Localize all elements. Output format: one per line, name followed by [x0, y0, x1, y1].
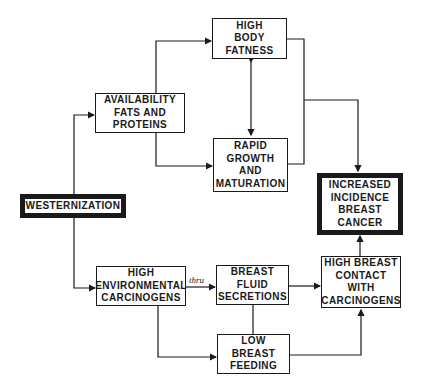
node-high-environmental-carcinogens: HIGH ENVIRONMENTAL CARCINOGENS: [96, 266, 186, 306]
node-low-breast-feeding: LOW BREAST FEEDING: [217, 334, 290, 374]
node-increased-incidence-breast-cancer: INCREASED INCIDENCE BREAST CANCER: [317, 173, 403, 235]
node-westernization: WESTERNIZATION: [20, 194, 126, 218]
node-high-breast-contact-carcinogens: HIGH BREAST CONTACT WITH CARCINOGENS: [321, 256, 401, 308]
node-rapid-growth-maturation: RAPID GROWTH AND MATURATION: [213, 138, 288, 192]
edge-label-thru: thru: [189, 275, 204, 285]
flowchart-canvas: WESTERNIZATION AVAILABILITY FATS AND PRO…: [0, 0, 421, 390]
node-availability-fats-proteins: AVAILABILITY FATS AND PROTEINS: [95, 93, 185, 133]
node-high-body-fatness: HIGH BODY FATNESS: [212, 18, 287, 59]
node-breast-fluid-secretions: BREAST FLUID SECRETIONS: [216, 265, 289, 305]
